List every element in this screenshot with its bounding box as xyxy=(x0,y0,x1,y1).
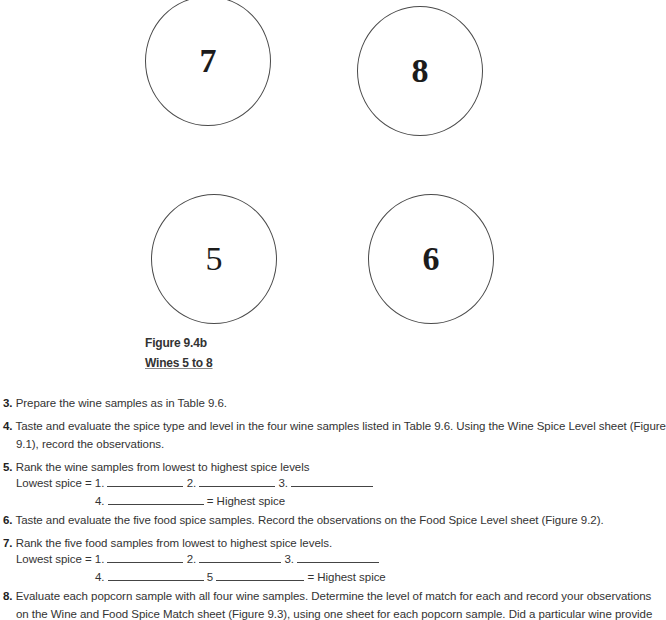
step-4-continued: 9.1), record the observations. xyxy=(16,438,164,450)
step-number: 7. xyxy=(3,537,13,549)
rank-4-label: 4. xyxy=(95,571,105,583)
wine-rank-row-2: 4. = Highest spice xyxy=(95,495,285,507)
wine-number-8: 8 xyxy=(412,54,429,88)
step-text: Rank the five food samples from lowest t… xyxy=(16,537,332,549)
step-8-continued: on the Wine and Food Spice Match sheet (… xyxy=(16,608,652,620)
food-rank-2-field[interactable] xyxy=(199,553,281,563)
wine-circle-8: 8 xyxy=(357,6,483,136)
step-text: Evaluate each popcorn sample with all fo… xyxy=(16,590,652,602)
step-number: 4. xyxy=(3,420,13,432)
rank-2-label: 2. xyxy=(187,553,197,565)
step-text: Rank the wine samples from lowest to hig… xyxy=(16,461,310,473)
wine-number-7: 7 xyxy=(200,44,217,78)
step-number: 6. xyxy=(3,514,13,526)
step-6: 6. Taste and evaluate the five food spic… xyxy=(3,514,604,526)
lowest-spice-label: Lowest spice = 1. xyxy=(16,477,104,489)
figure-caption-title: Figure 9.4b xyxy=(145,336,207,350)
wine-circle-5: 5 xyxy=(151,194,277,324)
wine-number-6: 6 xyxy=(423,242,440,276)
wine-rank-2-field[interactable] xyxy=(199,477,275,487)
rank-3-label: 3. xyxy=(284,553,294,565)
rank-5-label: 5 xyxy=(207,571,213,583)
step-number: 8. xyxy=(3,590,13,602)
wine-rank-1-field[interactable] xyxy=(107,477,183,487)
food-rank-4-field[interactable] xyxy=(108,571,204,581)
step-8: 8. Evaluate each popcorn sample with all… xyxy=(3,590,651,602)
step-5: 5. Rank the wine samples from lowest to … xyxy=(3,461,309,473)
highest-spice-label: = Highest spice xyxy=(307,571,385,583)
food-rank-1-field[interactable] xyxy=(107,553,183,563)
wine-number-5: 5 xyxy=(206,242,223,276)
step-text: Prepare the wine samples as in Table 9.6… xyxy=(16,397,227,409)
step-7: 7. Rank the five food samples from lowes… xyxy=(3,537,332,549)
step-text: Taste and evaluate the five food spice s… xyxy=(15,514,603,526)
lowest-spice-label: Lowest spice = 1. xyxy=(16,553,104,565)
wine-rank-row-1: Lowest spice = 1. 2. 3. xyxy=(16,477,373,489)
food-rank-row-2: 4. 5 = Highest spice xyxy=(95,571,386,583)
figure-caption-subtitle: Wines 5 to 8 xyxy=(145,356,213,370)
highest-spice-label: = Highest spice xyxy=(207,495,285,507)
food-rank-3-field[interactable] xyxy=(297,553,379,563)
wine-circle-7: 7 xyxy=(145,0,271,126)
rank-3-label: 3. xyxy=(278,477,288,489)
step-text: Taste and evaluate the spice type and le… xyxy=(15,420,665,432)
step-3: 3. Prepare the wine samples as in Table … xyxy=(3,397,227,409)
rank-4-label: 4. xyxy=(95,495,105,507)
food-rank-row-1: Lowest spice = 1. 2. 3. xyxy=(16,553,379,565)
wine-circle-6: 6 xyxy=(368,194,494,324)
wine-rank-4-field[interactable] xyxy=(108,495,204,505)
step-4: 4. Taste and evaluate the spice type and… xyxy=(3,420,666,432)
step-number: 3. xyxy=(3,397,13,409)
wine-rank-3-field[interactable] xyxy=(291,477,373,487)
food-rank-5-field[interactable] xyxy=(216,571,304,581)
step-number: 5. xyxy=(3,461,13,473)
rank-2-label: 2. xyxy=(187,477,197,489)
